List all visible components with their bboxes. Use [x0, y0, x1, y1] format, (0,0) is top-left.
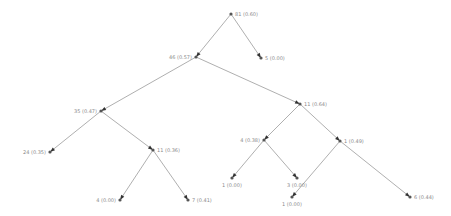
- node-label: 1 (0.49): [344, 138, 364, 144]
- edge-n3-n5: [50, 111, 101, 152]
- node-label: 11 (0.36): [157, 147, 180, 153]
- node-label: 46 (0.57): [169, 54, 192, 60]
- edge-n6-n10: [153, 150, 188, 200]
- tree-node-n3[interactable]: [99, 109, 102, 112]
- tree-node-n4[interactable]: [298, 102, 301, 105]
- tree-node-n0[interactable]: [229, 12, 232, 15]
- edge-n0-n2: [231, 14, 261, 58]
- tree-node-n7[interactable]: [262, 138, 265, 141]
- tree-node-n12[interactable]: [295, 176, 298, 179]
- edge-n4-n7: [264, 104, 300, 140]
- tree-node-n14[interactable]: [408, 195, 411, 198]
- edges-layer: [50, 14, 410, 200]
- edge-n0-n1: [196, 14, 231, 57]
- edge-n1-n3: [101, 57, 196, 111]
- node-label: 6 (0.44): [414, 194, 434, 200]
- node-label: 1 (0.00): [282, 201, 302, 207]
- edge-n8-n14: [340, 141, 410, 197]
- node-label: 24 (0.35): [23, 149, 46, 155]
- node-label: 1 (0.00): [222, 182, 242, 188]
- node-label: 7 (0.41): [192, 197, 212, 203]
- tree-node-n13[interactable]: [290, 195, 293, 198]
- tree-node-n2[interactable]: [259, 56, 262, 59]
- node-label: 5 (0.00): [265, 55, 285, 61]
- tree-node-n6[interactable]: [151, 148, 154, 151]
- nodes-layer: 81 (0.60)46 (0.57)5 (0.00)35 (0.47)11 (0…: [23, 11, 434, 208]
- edge-n4-n8: [300, 104, 340, 141]
- tree-node-n5[interactable]: [48, 150, 51, 153]
- node-label: 4 (0.38): [240, 137, 260, 143]
- node-label: 3 (0.00): [287, 182, 307, 188]
- edge-n7-n11: [232, 140, 264, 178]
- edge-n6-n9: [120, 150, 153, 200]
- tree-node-n1[interactable]: [194, 55, 197, 58]
- edge-n7-n12: [264, 140, 297, 178]
- tree-node-n10[interactable]: [186, 198, 189, 201]
- edge-n8-n13: [292, 141, 340, 197]
- tree-node-n9[interactable]: [118, 198, 121, 201]
- node-label: 11 (0.64): [304, 101, 327, 107]
- node-label: 4 (0.00): [96, 197, 116, 203]
- node-label: 35 (0.47): [74, 108, 97, 114]
- tree-node-n11[interactable]: [230, 176, 233, 179]
- edge-n1-n4: [196, 57, 300, 104]
- decision-tree-diagram: 81 (0.60)46 (0.57)5 (0.00)35 (0.47)11 (0…: [0, 0, 451, 216]
- tree-node-n8[interactable]: [338, 139, 341, 142]
- edge-n3-n6: [101, 111, 153, 150]
- node-label: 81 (0.60): [235, 11, 258, 17]
